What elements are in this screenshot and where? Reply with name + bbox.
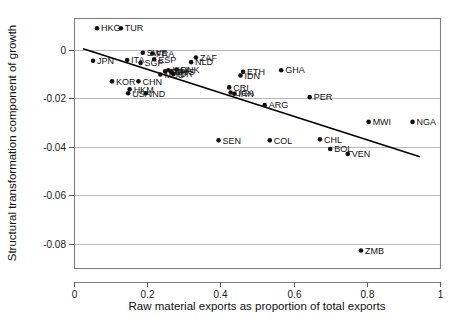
data-label-SGP: SGP	[145, 58, 164, 68]
data-point-ZMB[interactable]	[359, 248, 364, 253]
xtick-label-5: 1	[438, 289, 444, 300]
ytick-label-2: -0.04	[43, 142, 66, 153]
data-label-COL: COL	[274, 136, 293, 146]
xtick-label-1: 0.2	[141, 289, 155, 300]
data-point-KOR[interactable]	[110, 79, 115, 84]
chart-canvas: 0-0.02-0.04-0.06-0.0800.20.40.60.81Raw m…	[0, 0, 458, 318]
data-point-FRA[interactable]	[150, 51, 155, 56]
data-label-NGA: NGA	[417, 117, 437, 127]
data-point-CRI[interactable]	[227, 85, 232, 90]
data-point-JPN[interactable]	[91, 58, 96, 63]
data-label-IDN: IDN	[245, 71, 261, 81]
ytick-label-0: 0	[60, 45, 66, 56]
data-label-JPN: JPN	[97, 56, 114, 66]
data-point-ITA[interactable]	[125, 58, 130, 63]
ytick-label-1: -0.02	[43, 93, 66, 104]
y-axis-title: Structural transformation component of g…	[6, 25, 18, 262]
data-label-SEN: SEN	[223, 136, 242, 146]
data-point-PER[interactable]	[307, 95, 312, 100]
data-point-SEN[interactable]	[216, 138, 221, 143]
ytick-label-3: -0.06	[43, 190, 66, 201]
data-point-IDN[interactable]	[238, 73, 243, 78]
data-point-GHA[interactable]	[279, 68, 284, 73]
data-point-UGA[interactable]	[228, 90, 233, 95]
data-point-MWI[interactable]	[366, 120, 371, 125]
data-label-VEN: VEN	[352, 149, 371, 159]
data-point-VEN[interactable]	[345, 152, 350, 157]
data-point-TUR[interactable]	[119, 26, 124, 31]
ytick-label-4: -0.08	[43, 239, 66, 250]
data-label-MWI: MWI	[373, 117, 392, 127]
data-point-CHN[interactable]	[136, 79, 141, 84]
data-point-COL[interactable]	[268, 138, 273, 143]
xtick-label-4: 0.8	[361, 289, 375, 300]
data-point-ARG[interactable]	[262, 103, 267, 108]
data-point-IND[interactable]	[143, 91, 148, 96]
data-point-USA[interactable]	[126, 91, 131, 96]
data-label-GHA: GHA	[285, 65, 305, 75]
data-label-ZMB: ZMB	[365, 246, 384, 256]
data-point-CHL[interactable]	[318, 137, 323, 142]
data-label-UGA: UGA	[235, 88, 255, 98]
data-label-PER: PER	[314, 92, 333, 102]
plot-frame	[75, 19, 441, 269]
data-label-CHL: CHL	[324, 135, 342, 145]
data-label-TUR: TUR	[125, 23, 144, 33]
data-point-BOL[interactable]	[328, 147, 333, 152]
data-label-HKG: HKG	[101, 23, 121, 33]
data-point-NGA[interactable]	[410, 120, 415, 125]
scatter-plot-figure: 0-0.02-0.04-0.06-0.0800.20.40.60.81Raw m…	[0, 0, 458, 318]
data-point-HKG[interactable]	[95, 26, 100, 31]
data-label-ARG: ARG	[269, 100, 289, 110]
xtick-label-3: 0.6	[288, 289, 302, 300]
x-axis-title: Raw material exports as proportion of to…	[129, 300, 386, 312]
data-point-SGP[interactable]	[138, 61, 143, 66]
data-label-ISR: ISR	[178, 69, 194, 79]
xtick-label-2: 0.4	[214, 289, 228, 300]
xtick-label-0: 0	[72, 289, 78, 300]
data-label-IND: IND	[150, 89, 166, 99]
data-point-ISR[interactable]	[171, 72, 176, 77]
